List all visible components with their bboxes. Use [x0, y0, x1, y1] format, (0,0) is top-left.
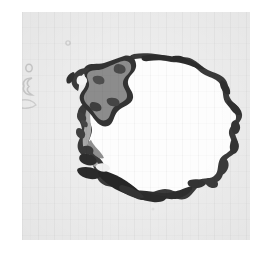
- speck-mark-top-icon: [66, 41, 70, 45]
- island-mark-left-outline-icon: [23, 78, 32, 95]
- map-panel: [22, 12, 250, 240]
- island-mark-left-lower-icon: [22, 100, 36, 109]
- antarctica-map-graphic: [22, 12, 250, 240]
- figure-root: [0, 0, 275, 255]
- speck-mark-lower-icon: [151, 207, 154, 210]
- island-mark-upper-left-icon: [26, 64, 32, 72]
